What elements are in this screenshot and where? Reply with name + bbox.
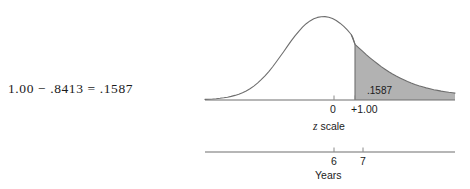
years-axis-label: Years	[315, 169, 341, 181]
shaded-area-value-label: .1587	[367, 85, 392, 96]
figure-page: 1.00 − .8413 = .1587 .1587 0 +1.00 z	[0, 0, 470, 189]
z-tick-label-plus-one: +1.00	[351, 103, 378, 115]
z-scale-axis-label: z scale	[313, 120, 345, 132]
years-tick-label-7: 7	[360, 155, 366, 167]
probability-equation: 1.00 − .8413 = .1587	[8, 81, 133, 97]
z-scale-text: scale	[317, 120, 344, 132]
years-tick-label-6: 6	[331, 155, 337, 167]
z-tick-label-0: 0	[330, 103, 336, 115]
normal-density-curve-joint	[351, 35, 355, 45]
